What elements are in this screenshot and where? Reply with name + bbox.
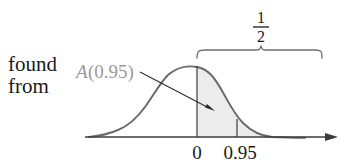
- brace-fraction-numerator: 1: [257, 9, 265, 26]
- brace-fraction-denominator: 2: [257, 28, 265, 45]
- area-label-argument: (0.95): [88, 61, 134, 83]
- x-axis-arrowhead-icon: [325, 133, 338, 141]
- normal-curve-figure: 1 2 A (0.95) found from 0 0.95: [0, 0, 349, 166]
- prose-line-1: found: [8, 52, 57, 76]
- figure-canvas: 1 2 A (0.95) found from 0 0.95: [0, 0, 349, 166]
- area-label-function-letter: A: [74, 61, 88, 82]
- prose-line-2: from: [8, 74, 49, 98]
- x-tick-label-0: 0: [192, 142, 202, 163]
- x-tick-label-095: 0.95: [223, 142, 256, 163]
- brace-path: [197, 46, 322, 58]
